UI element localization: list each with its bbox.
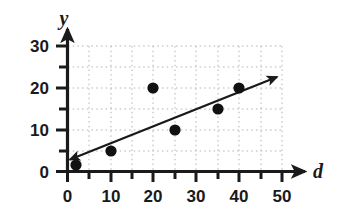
data-point bbox=[212, 103, 223, 114]
y-axis-label: y bbox=[58, 7, 69, 30]
plot-background bbox=[0, 0, 338, 214]
y-tick-label-10: 10 bbox=[30, 121, 49, 140]
scatter-plot-figure: 30 20 10 0 0 10 20 30 40 50 y d bbox=[0, 0, 338, 214]
data-point bbox=[147, 82, 158, 93]
plot-canvas: 30 20 10 0 0 10 20 30 40 50 y d bbox=[0, 0, 338, 214]
data-point bbox=[233, 82, 244, 93]
y-tick-label-0: 0 bbox=[40, 163, 49, 182]
x-tick-label-0: 0 bbox=[63, 187, 72, 206]
data-point bbox=[169, 124, 180, 135]
x-tick-label-40: 40 bbox=[230, 187, 249, 206]
y-tick-label-20: 20 bbox=[30, 79, 49, 98]
x-tick-label-30: 30 bbox=[187, 187, 206, 206]
x-tick-label-20: 20 bbox=[144, 187, 163, 206]
data-point bbox=[105, 145, 116, 156]
data-point bbox=[70, 159, 81, 170]
x-axis-label: d bbox=[313, 160, 324, 182]
y-tick-label-30: 30 bbox=[30, 37, 49, 56]
x-tick-label-10: 10 bbox=[102, 187, 121, 206]
x-tick-label-50: 50 bbox=[273, 187, 292, 206]
